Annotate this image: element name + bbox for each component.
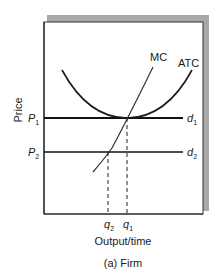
q2-label: q2 [104, 218, 114, 232]
x-axis-title: Output/time [95, 235, 152, 247]
q1-label: q1 [123, 218, 133, 232]
mc-label: MC [150, 51, 167, 63]
atc-label: ATC [178, 57, 199, 69]
firm-cost-diagram: MC ATC P1 P2 d1 d2 q2 q1 Output/time Pri… [0, 0, 216, 278]
p1-label: P1 [28, 112, 39, 126]
figure-caption: (a) Firm [104, 257, 143, 269]
p2-label: P2 [28, 146, 39, 160]
y-axis-title: Price [12, 97, 24, 122]
